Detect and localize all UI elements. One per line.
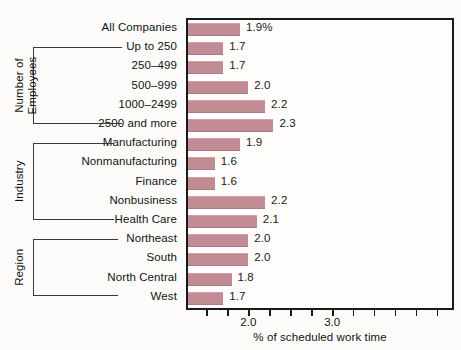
x-axis-title: % of scheduled work time xyxy=(186,331,454,343)
bar-row: 2.0 xyxy=(188,250,452,269)
axis-tick-label: 2.0 xyxy=(240,316,256,328)
bar-row: 2.2 xyxy=(188,97,452,116)
bar xyxy=(188,157,215,170)
bar xyxy=(188,196,265,209)
axis-tick xyxy=(227,310,228,316)
bar-value-label: 1.9% xyxy=(246,21,273,33)
axis-tick xyxy=(353,310,354,316)
group-bracket-label: Region xyxy=(13,229,26,307)
category-label: All Companies xyxy=(0,21,182,33)
bar-row: 1.7 xyxy=(188,39,452,58)
bar xyxy=(188,234,248,247)
axis-tick xyxy=(416,310,417,316)
bar-row: 1.6 xyxy=(188,154,452,173)
axis-tick xyxy=(437,310,438,316)
bar xyxy=(188,81,248,94)
bar-row: 2.1 xyxy=(188,212,452,231)
bar-value-label: 1.7 xyxy=(229,59,245,71)
bar-value-label: 2.3 xyxy=(279,117,295,129)
bar-value-label: 1.6 xyxy=(221,155,237,167)
bar xyxy=(188,215,257,228)
bar-value-label: 2.1 xyxy=(263,213,279,225)
bar-row: 1.9 xyxy=(188,135,452,154)
bar xyxy=(188,292,223,305)
bar xyxy=(188,100,265,113)
axis-tick xyxy=(311,310,312,316)
group-bracket xyxy=(33,143,114,220)
group-bracket xyxy=(33,47,122,124)
x-axis-ticks xyxy=(186,310,454,317)
bar xyxy=(188,23,240,36)
axis-tick xyxy=(206,310,207,316)
bars-container: 1.9%1.71.72.02.22.31.91.61.62.22.12.02.0… xyxy=(188,20,452,308)
bar-row: 2.0 xyxy=(188,78,452,97)
bar-row: 1.7 xyxy=(188,58,452,77)
group-bracket xyxy=(33,239,118,297)
bar-row: 1.6 xyxy=(188,174,452,193)
bar xyxy=(188,253,248,266)
bar-row: 1.7 xyxy=(188,289,452,308)
bar-value-label: 1.9 xyxy=(246,136,262,148)
bar-row: 1.9% xyxy=(188,20,452,39)
bar-value-label: 1.7 xyxy=(229,290,245,302)
group-bracket-label: Industry xyxy=(13,133,26,230)
bar-row: 2.0 xyxy=(188,231,452,250)
axis-tick-label: 3.0 xyxy=(324,316,340,328)
axis-tick xyxy=(374,310,375,316)
bar-row: 2.3 xyxy=(188,116,452,135)
bar-value-label: 2.0 xyxy=(254,79,270,91)
bar xyxy=(188,119,273,132)
axis-tick xyxy=(395,310,396,316)
axis-tick xyxy=(269,310,270,316)
group-bracket-label: Number ofEmployees xyxy=(13,37,38,134)
bar-row: 2.2 xyxy=(188,193,452,212)
bar-chart-figure: All CompaniesUp to 250250–499500–9991000… xyxy=(0,0,461,350)
bar-value-label: 2.0 xyxy=(254,232,270,244)
bar xyxy=(188,273,232,286)
bar xyxy=(188,61,223,74)
bar-value-label: 2.0 xyxy=(254,251,270,263)
bar xyxy=(188,42,223,55)
axis-tick xyxy=(290,310,291,316)
bar xyxy=(188,138,240,151)
bar-value-label: 1.7 xyxy=(229,40,245,52)
bar-value-label: 1.8 xyxy=(238,271,254,283)
bar-row: 1.8 xyxy=(188,270,452,289)
bar xyxy=(188,177,215,190)
bar-value-label: 2.2 xyxy=(271,194,287,206)
bar-value-label: 1.6 xyxy=(221,175,237,187)
bar-value-label: 2.2 xyxy=(271,98,287,110)
